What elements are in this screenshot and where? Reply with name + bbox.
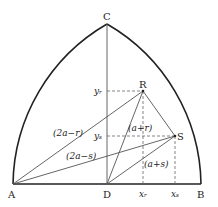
label-r: R (139, 79, 147, 90)
label-c: C (103, 11, 111, 22)
gothic-arch-diagram: C R S A D B yᵣ yₛ xᵣ xₛ (2a−r) (2a−s) (a… (0, 0, 218, 207)
label-2a-minus-r: (2a−r) (53, 128, 83, 138)
label-xs: xₛ (171, 189, 179, 199)
segment-dr (107, 91, 143, 184)
label-s: S (177, 131, 184, 142)
label-a-plus-s: (a+s) (144, 159, 169, 169)
label-ys: yₛ (93, 131, 102, 141)
label-2a-minus-s: (2a−s) (66, 151, 97, 161)
point-r-dot (142, 90, 145, 93)
label-b: B (197, 189, 204, 200)
label-a: A (7, 189, 16, 200)
point-s-dot (174, 135, 177, 138)
label-a-plus-r: (a+r) (128, 123, 153, 133)
label-xr: xᵣ (139, 189, 147, 199)
label-yr: yᵣ (93, 86, 102, 96)
label-d: D (103, 189, 111, 200)
